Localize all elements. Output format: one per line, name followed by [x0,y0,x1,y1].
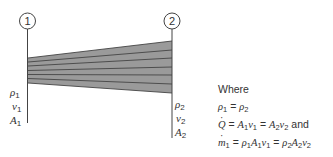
density-2-label: ρ2 [175,99,185,113]
equation-volume-flow: Q = A1v1 = A2v2 and [218,118,309,134]
section-2-number: 2 [169,15,175,27]
density-1-label: ρ1 [10,87,20,101]
area-1-label: A1 [10,115,21,129]
velocity-1-label: v1 [12,101,21,115]
stream-tube [28,41,172,93]
velocity-2-label: v2 [176,113,185,127]
area-2-label: A2 [175,127,186,141]
section-1-number: 1 [24,15,30,27]
equation-mass-flow: m1 = ρ1A1v1 = ρ2A2v2 [218,136,311,152]
where-heading: Where [218,83,249,95]
